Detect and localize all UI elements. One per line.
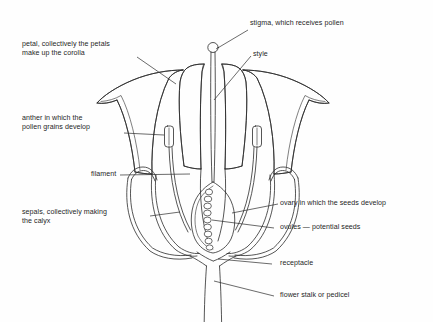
leader-pedicel bbox=[214, 281, 274, 296]
label-sepals: sepals, collectively making the calyx bbox=[22, 208, 107, 227]
label-ovules-line1: ovules — potential seeds bbox=[280, 223, 360, 231]
label-filament: filament bbox=[91, 170, 116, 179]
label-petal-line1: petal, collectively the petals bbox=[22, 40, 110, 48]
stigma-shape bbox=[208, 43, 218, 53]
label-stigma-line1: stigma, which receives pollen bbox=[250, 19, 344, 27]
label-anther: anther in which the pollen grains develo… bbox=[22, 114, 90, 133]
label-ovules: ovules — potential seeds bbox=[280, 223, 360, 232]
label-petal: petal, collectively the petals make up t… bbox=[22, 40, 110, 59]
stamen-right bbox=[236, 126, 262, 232]
stamen-left bbox=[165, 126, 191, 232]
ovary-shape bbox=[191, 182, 235, 253]
leader-ovary bbox=[232, 204, 278, 213]
label-ovary: ovary in which the seeds develop bbox=[280, 199, 386, 208]
label-stigma: stigma, which receives pollen bbox=[250, 19, 344, 28]
leader-stigma bbox=[216, 30, 248, 49]
leader-lines bbox=[120, 30, 278, 296]
label-anther-line2: pollen grains develop bbox=[22, 123, 90, 131]
label-filament-line1: filament bbox=[91, 170, 116, 178]
petal-outer-left bbox=[97, 70, 183, 174]
sepal-right bbox=[234, 167, 299, 259]
petal-base-right bbox=[227, 174, 275, 256]
label-ovary-line1: ovary in which the seeds develop bbox=[280, 199, 386, 207]
label-sepals-line2: the calyx bbox=[22, 217, 50, 225]
label-style: style bbox=[253, 50, 268, 59]
label-receptacle-line1: receptacle bbox=[280, 259, 313, 267]
label-receptacle: receptacle bbox=[280, 259, 313, 268]
style-shape bbox=[211, 52, 216, 182]
pedicel-shape bbox=[204, 266, 221, 322]
receptacle-shape bbox=[190, 252, 236, 266]
label-pedicel: flower stalk or pedicel bbox=[280, 291, 349, 300]
ovules-group bbox=[204, 189, 213, 250]
leader-anther bbox=[124, 133, 164, 135]
label-anther-line1: anther in which the bbox=[22, 114, 83, 122]
sepal-left bbox=[127, 167, 192, 259]
label-pedicel-line1: flower stalk or pedicel bbox=[280, 291, 349, 299]
label-petal-line2: make up the corolla bbox=[22, 49, 85, 57]
label-style-line1: style bbox=[253, 50, 268, 58]
petal-outer-right bbox=[243, 70, 329, 174]
flower-diagram: petal, collectively the petals make up t… bbox=[0, 0, 433, 322]
label-sepals-line1: sepals, collectively making bbox=[22, 208, 107, 216]
